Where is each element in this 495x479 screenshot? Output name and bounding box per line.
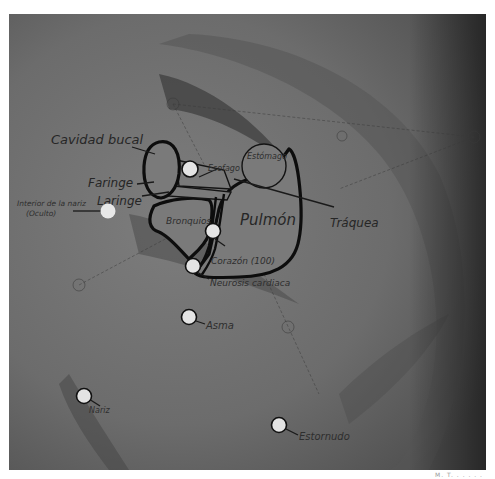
label-traquea: Tráquea xyxy=(330,216,379,230)
label-interior-nariz-line2: (Oculto) xyxy=(26,209,56,218)
point-nariz[interactable] xyxy=(77,389,92,404)
label-estornudo: Estornudo xyxy=(299,431,350,442)
label-interior-nariz-line1: Interior de la nariz xyxy=(17,199,87,208)
point-estornudo[interactable] xyxy=(272,418,287,433)
footer-caption: M. T. . . . . . xyxy=(435,471,483,478)
label-bronquios: Bronquios xyxy=(166,216,212,226)
label-estomago: Estómago xyxy=(247,151,287,161)
label-esofago: Esofago xyxy=(208,164,240,173)
point-interior-nariz[interactable] xyxy=(101,204,116,219)
label-asma: Asma xyxy=(205,320,234,331)
label-faringe: Faringe xyxy=(88,176,133,190)
point-corazon[interactable] xyxy=(206,224,221,239)
label-nariz: Nariz xyxy=(89,406,110,415)
point-asma[interactable] xyxy=(182,310,197,325)
right-edge-shadow xyxy=(409,14,486,470)
organ-cavidad-bucal xyxy=(144,142,179,198)
point-esofago[interactable] xyxy=(182,161,198,177)
label-cavidad-bucal: Cavidad bucal xyxy=(51,132,144,147)
label-neurosis-cardiaca: Neurosis cardiaca xyxy=(210,278,290,288)
label-corazon: Corazón (100) xyxy=(211,256,275,266)
ear-diagram: Cavidad bucal Faringe Laringe Esofago Es… xyxy=(9,14,486,470)
label-pulmon: Pulmón xyxy=(240,211,296,229)
organ-estomago xyxy=(242,144,286,188)
point-neurosis-cardiaca[interactable] xyxy=(186,259,201,274)
ear-diagram-svg: Cavidad bucal Faringe Laringe Esofago Es… xyxy=(9,14,486,470)
